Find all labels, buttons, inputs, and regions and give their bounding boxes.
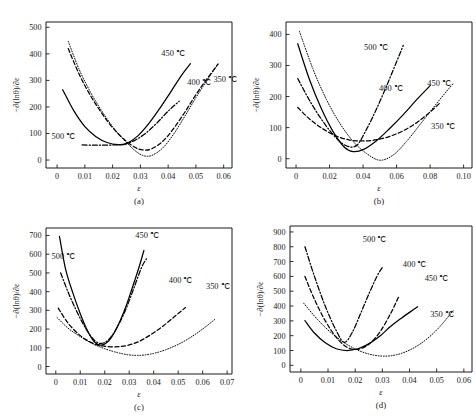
x-tick-label-d-5: 0.05 bbox=[430, 376, 444, 385]
plot-frame-d bbox=[290, 226, 472, 372]
x-tick-label-d-4: 0.04 bbox=[402, 376, 416, 385]
plot-frame-c bbox=[46, 228, 232, 374]
series-label-b-350: 350 ℃ bbox=[431, 122, 455, 131]
y-tick-label-d-5: 500 bbox=[273, 287, 285, 296]
x-tick-label-b-5: 0.10 bbox=[456, 172, 470, 181]
curve-d-500 bbox=[305, 247, 382, 343]
series-label-c-400: 400 ℃ bbox=[169, 276, 193, 285]
x-tick-label-c-4: 0.04 bbox=[147, 378, 161, 387]
curve-c-500 bbox=[61, 259, 147, 344]
x-tick-label-c-6: 0.06 bbox=[195, 378, 209, 387]
y-tick-label-a-4: 400 bbox=[29, 50, 41, 59]
chart-panel-c: 00.010.020.030.040.050.060.0701002003004… bbox=[0, 208, 238, 416]
y-tick-label-d-4: 400 bbox=[273, 302, 285, 311]
panel-caption-a: (a) bbox=[134, 196, 144, 206]
y-axis-title-c: −∂(lnθ)/∂ε bbox=[12, 283, 21, 318]
panel-caption-b: (b) bbox=[374, 196, 384, 206]
panel-caption-c: (c) bbox=[134, 402, 144, 412]
curve-b-500 bbox=[298, 45, 404, 147]
y-axis-title-a: −∂(lnθ)/∂ε bbox=[12, 77, 21, 112]
y-tick-label-d-8: 800 bbox=[273, 243, 285, 252]
y-tick-label-c-6: 600 bbox=[29, 250, 41, 259]
y-tick-label-b-0: 0 bbox=[277, 155, 281, 164]
y-tick-label-d-1: 100 bbox=[273, 347, 285, 356]
x-tick-label-c-7: 0.07 bbox=[220, 378, 234, 387]
y-axis-title-b: −∂(lnθ)/∂ε bbox=[252, 77, 261, 112]
y-tick-label-c-7: 700 bbox=[29, 231, 41, 240]
y-tick-label-d-6: 600 bbox=[273, 272, 285, 281]
y-tick-label-a-3: 300 bbox=[29, 76, 41, 85]
y-tick-label-b-3: 300 bbox=[269, 61, 281, 70]
y-tick-label-a-5: 500 bbox=[29, 23, 41, 32]
plot-frame-a bbox=[46, 22, 232, 168]
x-tick-label-b-2: 0.04 bbox=[356, 172, 370, 181]
x-tick-label-d-3: 0.03 bbox=[375, 376, 389, 385]
series-label-b-500: 500 ℃ bbox=[364, 43, 388, 52]
y-tick-label-b-2: 200 bbox=[269, 93, 281, 102]
figure-grid: 00.010.020.030.040.050.06010020030040050… bbox=[0, 0, 476, 416]
curves-group-c bbox=[57, 236, 215, 355]
x-tick-label-a-3: 0.03 bbox=[133, 172, 147, 181]
y-tick-label-d-2: 200 bbox=[273, 332, 285, 341]
y-tick-label-a-0: 0 bbox=[37, 156, 41, 165]
x-axis-title-d: ε bbox=[379, 387, 383, 397]
series-label-c-350: 350 ℃ bbox=[206, 282, 230, 291]
curves-group-d bbox=[304, 247, 453, 356]
x-tick-label-b-3: 0.06 bbox=[389, 172, 403, 181]
y-tick-label-c-2: 200 bbox=[29, 325, 41, 334]
y-tick-label-c-3: 300 bbox=[29, 306, 41, 315]
y-tick-label-d-7: 700 bbox=[273, 258, 285, 267]
y-tick-label-d-3: 300 bbox=[273, 317, 285, 326]
series-label-a-350: 350 ℃ bbox=[213, 75, 237, 84]
x-tick-label-b-0: 0 bbox=[294, 172, 298, 181]
y-tick-label-b-4: 400 bbox=[269, 30, 281, 39]
series-label-a-450: 450 ℃ bbox=[161, 49, 185, 58]
y-tick-label-c-1: 100 bbox=[29, 344, 41, 353]
series-label-a-400: 400 ℃ bbox=[187, 78, 211, 87]
x-tick-label-c-5: 0.05 bbox=[171, 378, 185, 387]
curves-group-a bbox=[63, 41, 218, 156]
x-axis-title-b: ε bbox=[377, 183, 381, 193]
y-tick-label-c-0: 0 bbox=[37, 363, 41, 372]
series-label-c-500: 500 ℃ bbox=[52, 252, 76, 261]
y-axis-title-d: −∂(lnθ)/∂ε bbox=[256, 281, 265, 316]
x-tick-label-b-1: 0.02 bbox=[322, 172, 336, 181]
y-tick-label-d-9: 900 bbox=[273, 228, 285, 237]
y-tick-label-c-5: 500 bbox=[29, 269, 41, 278]
curve-a-350 bbox=[68, 41, 218, 156]
x-axis-title-a: ε bbox=[137, 183, 141, 193]
x-tick-label-d-1: 0.01 bbox=[321, 376, 335, 385]
chart-panel-d: 00.010.020.030.040.050.06010020030040050… bbox=[238, 208, 476, 416]
x-tick-label-c-0: 0 bbox=[54, 378, 58, 387]
x-tick-label-c-1: 0.01 bbox=[73, 378, 87, 387]
chart-panel-a: 00.010.020.030.040.050.06010020030040050… bbox=[0, 0, 238, 208]
series-label-d-400: 400 ℃ bbox=[403, 260, 427, 269]
y-tick-label-a-1: 100 bbox=[29, 129, 41, 138]
x-tick-label-b-4: 0.08 bbox=[423, 172, 437, 181]
series-label-b-400: 400 ℃ bbox=[379, 84, 403, 93]
y-tick-label-b-1: 100 bbox=[269, 124, 281, 133]
chart-panel-b: 00.020.040.060.080.100100200300400350 ℃4… bbox=[238, 0, 476, 208]
x-tick-label-c-2: 0.02 bbox=[98, 378, 112, 387]
x-tick-label-d-6: 0.06 bbox=[457, 376, 471, 385]
x-tick-label-d-0: 0 bbox=[299, 376, 303, 385]
x-tick-label-a-6: 0.06 bbox=[217, 172, 231, 181]
x-tick-label-a-2: 0.02 bbox=[105, 172, 119, 181]
y-tick-label-a-2: 200 bbox=[29, 103, 41, 112]
x-tick-label-a-5: 0.05 bbox=[189, 172, 203, 181]
y-tick-label-c-4: 400 bbox=[29, 288, 41, 297]
x-tick-label-c-3: 0.03 bbox=[122, 378, 136, 387]
series-label-a-500: 500 ℃ bbox=[52, 132, 76, 141]
curve-d-400 bbox=[305, 276, 399, 349]
y-tick-label-d-0: 0 bbox=[281, 361, 285, 370]
series-label-c-450: 450 ℃ bbox=[135, 231, 159, 240]
x-tick-label-a-0: 0 bbox=[55, 172, 59, 181]
curve-b-400 bbox=[298, 103, 440, 141]
series-label-d-450: 450 ℃ bbox=[425, 274, 449, 283]
x-tick-label-d-2: 0.02 bbox=[348, 376, 362, 385]
x-tick-label-a-1: 0.01 bbox=[78, 172, 92, 181]
series-label-d-350: 350 ℃ bbox=[430, 310, 454, 319]
series-label-b-450: 450 ℃ bbox=[427, 79, 451, 88]
x-axis-title-c: ε bbox=[137, 389, 141, 399]
x-tick-label-a-4: 0.04 bbox=[161, 172, 175, 181]
